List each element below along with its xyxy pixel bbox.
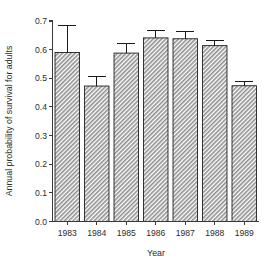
bar-1988[interactable] <box>203 46 227 222</box>
bar-1985[interactable] <box>114 53 138 221</box>
y-tick-label: 0.5 <box>35 73 47 83</box>
x-tick-label-1987: 1987 <box>176 228 195 238</box>
y-tick-label: 0.0 <box>35 217 47 227</box>
bar-1984[interactable] <box>85 86 109 221</box>
bar-1986[interactable] <box>144 38 168 222</box>
y-tick-label: 0.7 <box>35 16 47 26</box>
x-tick-label-1984: 1984 <box>87 228 106 238</box>
y-tick-label: 0.4 <box>35 102 47 112</box>
x-tick-label-1983: 1983 <box>58 228 77 238</box>
bar-1983[interactable] <box>55 53 79 222</box>
x-tick-label-1986: 1986 <box>146 228 165 238</box>
bar-1987[interactable] <box>173 39 197 222</box>
y-tick-label: 0.2 <box>35 159 47 169</box>
x-tick-label-1989: 1989 <box>235 228 254 238</box>
bar-chart-plot: 0.00.10.20.30.40.50.60.7 198319841985198… <box>0 0 277 265</box>
y-tick-label: 0.6 <box>35 45 47 55</box>
y-axis-title: Annual probability of survival for adult… <box>4 45 14 196</box>
chart-figure: 0.00.10.20.30.40.50.60.7 198319841985198… <box>0 0 277 265</box>
x-tick-label-1988: 1988 <box>205 228 224 238</box>
x-axis-ticks: 1983198419851986198719881989 <box>58 222 254 238</box>
bar-1989[interactable] <box>232 86 256 222</box>
y-tick-label: 0.3 <box>35 131 47 141</box>
y-axis-ticks: 0.00.10.20.30.40.50.60.7 <box>35 16 52 227</box>
x-axis-title: Year <box>147 248 165 258</box>
x-tick-label-1985: 1985 <box>117 228 136 238</box>
bars-group <box>55 38 256 222</box>
y-tick-label: 0.1 <box>35 188 47 198</box>
